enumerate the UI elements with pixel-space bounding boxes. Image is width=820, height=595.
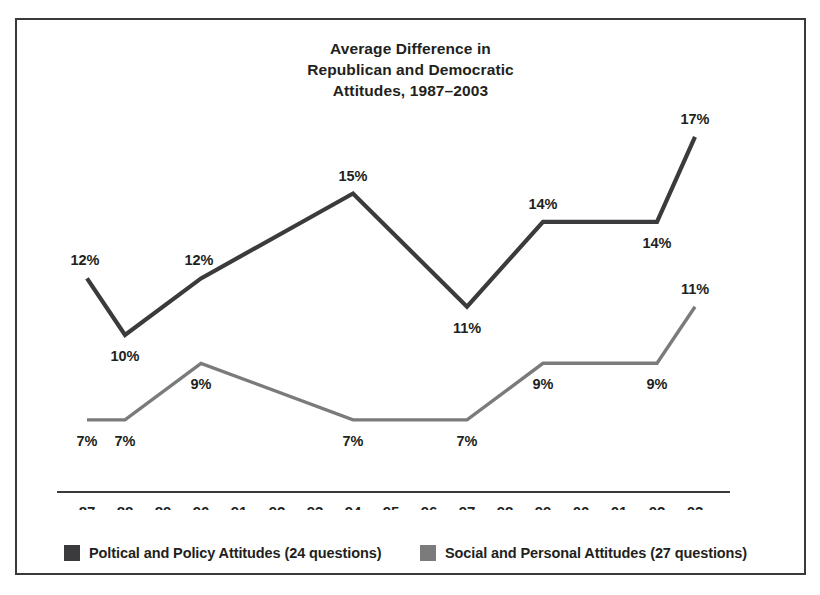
x-tick-label-87: 87: [79, 503, 96, 510]
x-tick-label-91: 91: [231, 503, 248, 510]
value-label-0-03: 17%: [680, 111, 709, 127]
value-label-0-97: 11%: [453, 320, 481, 336]
legend-swatch-1: [420, 545, 436, 561]
x-tick-label-92: 92: [269, 503, 286, 510]
series-layer: [87, 137, 695, 420]
value-label-0-90: 12%: [184, 252, 213, 268]
legend-entry-1[interactable]: Social and Personal Attitudes (27 questi…: [420, 545, 747, 561]
value-label-1-02: 9%: [647, 376, 668, 392]
value-label-0-88: 10%: [110, 348, 139, 364]
value-label-1-99: 9%: [533, 376, 554, 392]
x-tick-label-98: 98: [497, 503, 514, 510]
value-label-1-03: 11%: [681, 281, 709, 297]
value-label-0-99: 14%: [528, 196, 557, 212]
figure-frame: Average Difference in Republican and Dem…: [15, 18, 806, 575]
x-tick-label-89: 89: [155, 503, 172, 510]
legend-entry-0[interactable]: Poltical and Policy Attitudes (24 questi…: [64, 545, 381, 561]
value-label-1-88: 7%: [115, 433, 136, 449]
x-tick-label-90: 90: [193, 503, 210, 510]
value-label-1-94: 7%: [343, 433, 364, 449]
value-label-0-94: 15%: [338, 168, 367, 184]
value-label-1-97: 7%: [457, 433, 478, 449]
legend-swatch-0: [64, 545, 80, 561]
x-tick-label-02: 02: [649, 503, 666, 510]
line-chart-svg: 8788899091929394959697989900010203 12%10…: [17, 20, 808, 510]
legend-label-1: Social and Personal Attitudes (27 questi…: [445, 545, 747, 561]
x-tick-label-95: 95: [383, 503, 400, 510]
x-tick-label-96: 96: [421, 503, 438, 510]
plot-area: 8788899091929394959697989900010203 12%10…: [17, 20, 808, 510]
x-tick-label-99: 99: [535, 503, 552, 510]
x-tick-label-97: 97: [459, 503, 476, 510]
series-line-1: [87, 307, 695, 420]
series-line-0: [87, 137, 695, 335]
value-label-1-90: 9%: [191, 376, 212, 392]
x-tick-label-03: 03: [687, 503, 704, 510]
legend-label-0: Poltical and Policy Attitudes (24 questi…: [89, 545, 381, 561]
legend: Poltical and Policy Attitudes (24 questi…: [17, 535, 808, 577]
x-tick-label-01: 01: [611, 503, 628, 510]
x-tick-label-94: 94: [345, 503, 362, 510]
value-label-0-02: 14%: [642, 235, 671, 251]
value-label-0-87: 12%: [70, 252, 99, 268]
value-label-1-87: 7%: [77, 433, 98, 449]
x-axis-tick-labels: 8788899091929394959697989900010203: [79, 503, 704, 510]
x-tick-label-93: 93: [307, 503, 324, 510]
x-tick-label-00: 00: [573, 503, 590, 510]
data-value-labels: 12%10%12%15%11%14%14%17%7%7%9%7%7%9%9%11…: [70, 111, 709, 449]
x-tick-label-88: 88: [117, 503, 134, 510]
